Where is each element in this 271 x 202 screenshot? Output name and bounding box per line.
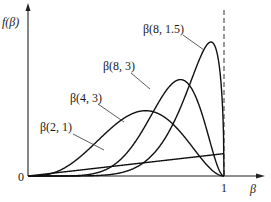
leader-b43 — [98, 104, 124, 122]
leader-b21 — [73, 134, 104, 150]
y-axis-arrow-icon — [26, 3, 31, 11]
origin-label: 0 — [18, 170, 24, 184]
y-axis-label: f(β) — [2, 15, 19, 29]
x-one-label: 1 — [221, 181, 227, 195]
x-axis-arrow-icon — [256, 174, 265, 179]
series-label-b43: β(4, 3) — [70, 91, 102, 105]
leader-b83 — [131, 73, 150, 89]
beta-distribution-chart: f(β) 0 1 β β(8, 1.5) β(8, 3) β(4, 3) β(2… — [0, 0, 271, 202]
leader-b81p5 — [183, 35, 204, 50]
x-axis-label: β — [249, 182, 256, 196]
series-label-b21: β(2, 1) — [40, 120, 72, 134]
curve-b21 — [28, 154, 224, 176]
series-label-b81p5: β(8, 1.5) — [143, 22, 184, 36]
series-label-b83: β(8, 3) — [103, 59, 135, 73]
